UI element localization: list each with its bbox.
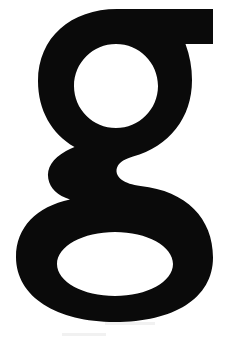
letter-g-glyph <box>0 0 231 344</box>
specimen-canvas: g <box>0 0 231 344</box>
